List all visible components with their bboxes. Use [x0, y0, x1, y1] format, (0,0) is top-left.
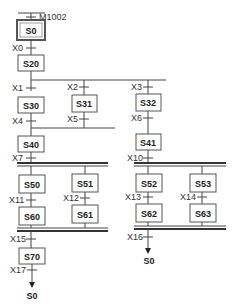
- step-s53-label: S53: [195, 179, 211, 189]
- jump-target-left: S0: [26, 291, 37, 301]
- jump-arrow-icon: [29, 282, 35, 288]
- transition-label-x12: X12: [63, 193, 79, 203]
- transition-label-x3: X3: [131, 82, 142, 92]
- jump-target-right: S0: [143, 256, 154, 266]
- step-s30-label: S30: [23, 101, 39, 111]
- step-s61-label: S61: [77, 210, 93, 220]
- step-s50-label: S50: [24, 180, 40, 190]
- step-s60-label: S60: [24, 212, 40, 222]
- transition-label-x4: X4: [12, 116, 23, 126]
- transition-label-x17: X17: [10, 265, 26, 275]
- transition-label-x11: X11: [9, 195, 24, 205]
- step-s20-label: S20: [23, 59, 39, 69]
- step-s70-label: S70: [24, 252, 40, 262]
- transition-label-x6: X6: [131, 113, 142, 123]
- transition-label-x15: X15: [10, 234, 26, 244]
- jump-arrow-icon: [145, 248, 151, 254]
- transition-label-x13: X13: [125, 192, 141, 202]
- step-s52-label: S52: [141, 179, 157, 189]
- transition-label-x5: X5: [67, 114, 78, 124]
- transition-label-x1: X1: [12, 83, 23, 93]
- transition-label-x16: X16: [127, 232, 143, 242]
- step-s31-label: S31: [76, 99, 92, 109]
- transition-label-x0: X0: [12, 43, 23, 53]
- step-s41-label: S41: [140, 138, 156, 148]
- step-s51-label: S51: [77, 179, 93, 189]
- step-s0-label: S0: [25, 26, 36, 36]
- step-s63-label: S63: [195, 209, 211, 219]
- transition-label-x7: X7: [12, 153, 23, 163]
- step-s32-label: S32: [140, 98, 156, 108]
- step-s62-label: S62: [141, 209, 157, 219]
- sfc-diagram: M1002 S0 X0 S20 X1 X2 X3 S30 S31 S32 X4 …: [0, 0, 232, 307]
- step-s40-label: S40: [23, 140, 39, 150]
- transition-label-x10: X10: [127, 153, 143, 163]
- transition-label-x14: X14: [180, 192, 196, 202]
- transition-label-x2: X2: [67, 82, 78, 92]
